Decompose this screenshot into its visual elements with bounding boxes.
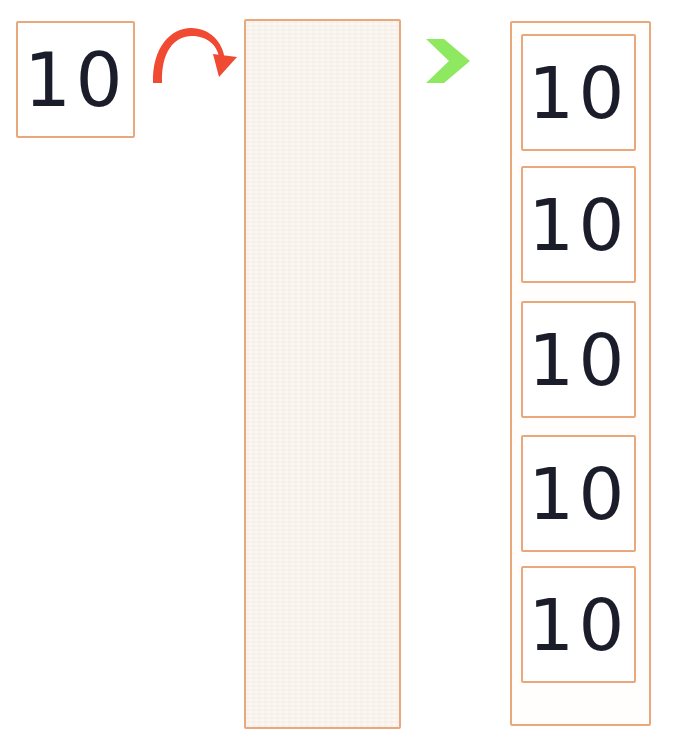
chevron-right-arrow-icon (423, 37, 473, 85)
result-card[interactable]: 10 (521, 34, 636, 151)
result-card-value: 10 (523, 303, 634, 416)
result-card-value: 10 (523, 437, 634, 550)
curved-repeat-arrow-icon (150, 27, 236, 85)
result-card[interactable]: 10 (521, 435, 636, 552)
empty-panel-label (246, 21, 399, 727)
result-card[interactable]: 10 (521, 301, 636, 418)
diagram-canvas: 10 10 10 10 10 10 (0, 0, 677, 746)
source-value-text: 10 (18, 23, 133, 136)
source-value-card[interactable]: 10 (16, 21, 135, 138)
repeated-values-column[interactable]: 10 10 10 10 10 (510, 21, 651, 726)
empty-paper-panel[interactable] (244, 19, 401, 729)
result-card-value: 10 (523, 36, 634, 149)
result-card[interactable]: 10 (521, 566, 636, 683)
result-card-value: 10 (523, 168, 634, 281)
result-card[interactable]: 10 (521, 166, 636, 283)
result-card-value: 10 (523, 568, 634, 681)
